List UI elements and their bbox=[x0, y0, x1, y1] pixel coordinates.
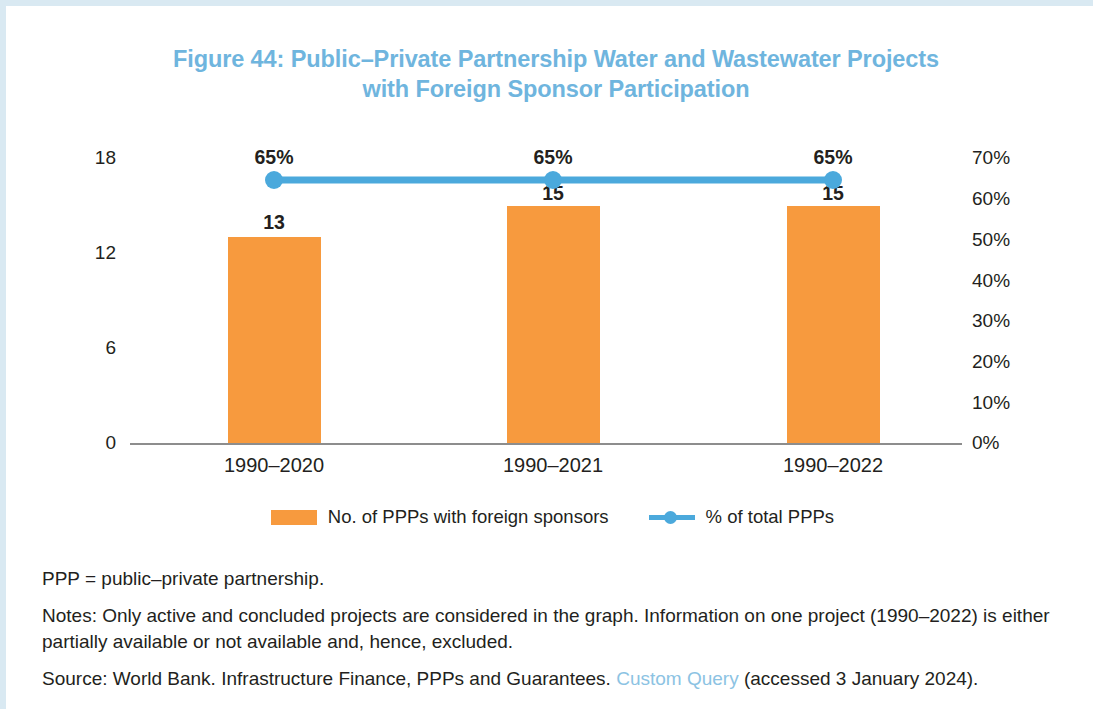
x-axis-tick-label: 1990–2020 bbox=[224, 454, 324, 477]
bar-value-label: 13 bbox=[263, 211, 285, 234]
x-axis-tick-label: 1990–2021 bbox=[503, 454, 603, 477]
chart-legend: No. of PPPs with foreign sponsors % of t… bbox=[6, 506, 1093, 528]
bar-1990-2020[interactable] bbox=[228, 237, 321, 443]
line-value-label: 65% bbox=[254, 146, 293, 169]
figure-frame: Figure 44: Public–Private Partnership Wa… bbox=[0, 0, 1093, 709]
bar-1990-2022[interactable] bbox=[787, 206, 880, 443]
legend-item-line-series[interactable]: % of total PPPs bbox=[649, 506, 835, 528]
custom-query-link[interactable]: Custom Query bbox=[616, 668, 738, 689]
source-prefix: Source: World Bank. Infrastructure Finan… bbox=[42, 668, 616, 689]
chart-plot-area: 18 12 6 0 70% 60% 50% 40% 30% 20% 10% 0%… bbox=[6, 6, 1093, 476]
notes-text: Notes: Only active and concluded project… bbox=[42, 603, 1072, 655]
legend-bar-swatch-icon bbox=[271, 510, 317, 525]
bar-1990-2021[interactable] bbox=[507, 206, 600, 443]
source-suffix: (accessed 3 January 2024). bbox=[739, 668, 979, 689]
x-axis-tick-label: 1990–2022 bbox=[783, 454, 883, 477]
bar-series bbox=[6, 6, 1093, 443]
legend-item-bar-label: No. of PPPs with foreign sponsors bbox=[328, 506, 609, 528]
legend-item-line-label: % of total PPPs bbox=[706, 506, 835, 528]
bar-value-label: 15 bbox=[822, 182, 844, 205]
legend-item-bar-series[interactable]: No. of PPPs with foreign sponsors bbox=[271, 506, 609, 528]
line-value-label: 65% bbox=[813, 146, 852, 169]
abbreviation-note: PPP = public–private partnership. bbox=[42, 566, 1072, 592]
legend-line-swatch-icon bbox=[649, 509, 695, 525]
figure-footnotes: PPP = public–private partnership. Notes:… bbox=[42, 566, 1072, 692]
x-axis-baseline bbox=[130, 443, 962, 445]
source-line: Source: World Bank. Infrastructure Finan… bbox=[42, 666, 1072, 692]
bar-value-label: 15 bbox=[542, 182, 564, 205]
line-value-label: 65% bbox=[533, 146, 572, 169]
